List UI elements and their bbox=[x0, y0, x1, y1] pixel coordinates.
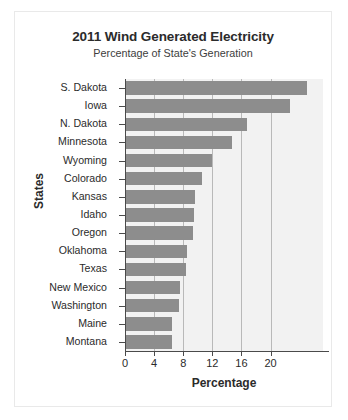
bar bbox=[125, 335, 172, 349]
bar bbox=[125, 299, 179, 313]
bar bbox=[125, 154, 212, 168]
bar bbox=[125, 245, 187, 259]
x-axis-tick bbox=[241, 351, 242, 356]
x-axis-tick bbox=[183, 351, 184, 356]
y-axis-tick-label: Colorado bbox=[64, 173, 107, 184]
y-axis-tick bbox=[119, 269, 125, 270]
y-axis-tick-label: Washington bbox=[51, 300, 107, 311]
x-axis-tick-label: 0 bbox=[110, 357, 140, 369]
y-axis-label: States bbox=[32, 161, 46, 221]
y-axis-tick-label: S. Dakota bbox=[60, 82, 107, 93]
y-axis-tick-label: Texas bbox=[79, 263, 107, 274]
chart-subtitle: Percentage of State's Generation bbox=[15, 47, 331, 59]
x-axis-line bbox=[125, 351, 329, 352]
y-axis-tick-label: Montana bbox=[66, 336, 107, 347]
bar bbox=[125, 81, 307, 95]
bar bbox=[125, 317, 172, 331]
y-axis-tick bbox=[119, 306, 125, 307]
y-axis-tick-label: Idaho bbox=[80, 209, 107, 220]
y-axis-tick bbox=[119, 324, 125, 325]
y-axis-tick bbox=[119, 124, 125, 125]
bar bbox=[125, 172, 202, 186]
x-axis-tick bbox=[154, 351, 155, 356]
y-axis-tick bbox=[119, 251, 125, 252]
y-axis-tick bbox=[119, 88, 125, 89]
y-axis-tick bbox=[119, 161, 125, 162]
x-axis-label: Percentage bbox=[125, 376, 323, 390]
x-axis-tick bbox=[271, 351, 272, 356]
chart-title: 2011 Wind Generated Electricity bbox=[15, 29, 331, 44]
y-axis-tick bbox=[119, 215, 125, 216]
bar bbox=[125, 118, 247, 132]
y-axis-tick-label: Oregon bbox=[72, 227, 107, 238]
y-axis-tick bbox=[119, 288, 125, 289]
y-axis-tick bbox=[119, 233, 125, 234]
gridline bbox=[271, 79, 272, 351]
y-axis-tick bbox=[119, 342, 125, 343]
plot-area bbox=[125, 79, 323, 351]
x-axis-tick-label: 8 bbox=[168, 357, 198, 369]
x-axis-tick-label: 4 bbox=[139, 357, 169, 369]
y-axis-tick bbox=[119, 142, 125, 143]
bar bbox=[125, 99, 290, 113]
x-axis-tick bbox=[212, 351, 213, 356]
y-axis-tick-label: Oklahoma bbox=[59, 245, 107, 256]
y-axis-tick-label: Wyoming bbox=[63, 155, 107, 166]
y-axis-tick-label: Minnesota bbox=[58, 136, 107, 147]
y-axis-tick-label: N. Dakota bbox=[60, 118, 107, 129]
y-axis-tick bbox=[119, 106, 125, 107]
x-axis-tick-label: 12 bbox=[197, 357, 227, 369]
y-axis-tick-label: Kansas bbox=[72, 191, 107, 202]
y-axis-tick-label: Iowa bbox=[85, 100, 107, 111]
y-axis-tick bbox=[119, 179, 125, 180]
y-axis-tick-label: New Mexico bbox=[49, 282, 107, 293]
bar bbox=[125, 136, 232, 150]
chart-figure: 2011 Wind Generated Electricity Percenta… bbox=[14, 11, 332, 407]
y-axis-tick-label: Maine bbox=[78, 318, 107, 329]
bar bbox=[125, 281, 180, 295]
x-axis-tick-label: 20 bbox=[256, 357, 286, 369]
bar bbox=[125, 226, 193, 240]
x-axis-tick-label: 16 bbox=[226, 357, 256, 369]
x-axis-tick bbox=[125, 351, 126, 356]
bar bbox=[125, 208, 194, 222]
bar bbox=[125, 263, 186, 277]
bar bbox=[125, 190, 195, 204]
y-axis-line bbox=[125, 79, 126, 351]
y-axis-tick bbox=[119, 197, 125, 198]
